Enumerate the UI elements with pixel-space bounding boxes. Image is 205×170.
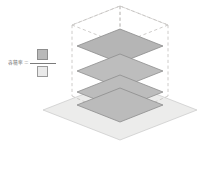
floor-plate-stack	[77, 29, 163, 122]
formula-fraction	[30, 49, 56, 76]
numerator-swatch	[37, 49, 48, 60]
denominator-swatch	[37, 66, 48, 77]
formula-label: 容積率＝	[8, 61, 29, 66]
figure-canvas: 容積率＝	[0, 0, 205, 170]
isometric-diagram	[0, 0, 205, 170]
fraction-bar	[30, 63, 56, 64]
floor-area-ratio-formula: 容積率＝	[8, 41, 76, 85]
